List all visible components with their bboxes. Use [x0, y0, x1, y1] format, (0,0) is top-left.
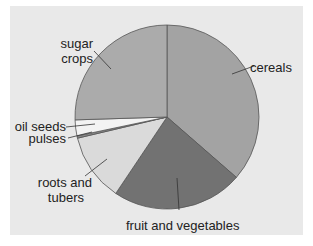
label-roots-line2: tubers [48, 190, 85, 205]
pie-chart: cereals fruit and vegetables roots and t… [0, 0, 313, 246]
label-sugar-line1: sugar [60, 36, 93, 51]
label-fruit-and-vegetables: fruit and vegetables [126, 218, 240, 233]
label-oil-seeds: oil seeds [15, 119, 67, 134]
label-sugar-line2: crops [61, 51, 93, 66]
label-cereals: cereals [250, 60, 292, 75]
label-roots-line1: roots and [38, 175, 92, 190]
pie-slices [75, 25, 259, 209]
